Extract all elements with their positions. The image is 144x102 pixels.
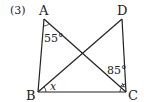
vertex-label-D: D (117, 3, 127, 18)
segment-AC (44, 19, 126, 92)
angle-label-A: 55° (44, 32, 64, 45)
vertex-label-A: A (38, 3, 49, 18)
angle-label-C: 85° (107, 64, 127, 77)
angle-arc-C-bottom (120, 88, 122, 92)
geometry-figure: (3) A D B C 55° 85° x (0, 0, 144, 102)
angle-arc-A (43, 24, 49, 26)
vertex-label-C: C (128, 88, 138, 102)
angle-label-B-x: x (50, 80, 57, 93)
angle-arc-B (44, 87, 46, 92)
problem-number: (3) (10, 4, 26, 17)
segment-AB (38, 19, 44, 92)
vertex-label-B: B (26, 88, 36, 102)
segment-CD (122, 19, 126, 92)
